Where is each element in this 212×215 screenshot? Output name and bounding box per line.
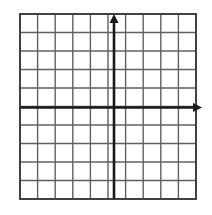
- coordinate-grid-canvas: [0, 0, 212, 215]
- coordinate-grid-figure: [0, 0, 212, 215]
